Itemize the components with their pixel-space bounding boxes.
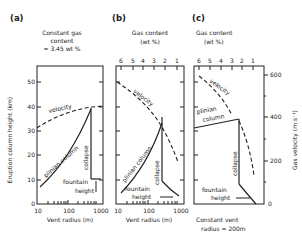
panel-c-column-label: column	[202, 112, 225, 123]
y2-tick-600: 600	[270, 71, 282, 78]
panel-b-plinian-label: plinian column	[120, 144, 154, 184]
panel-b-label: (b)	[112, 13, 126, 23]
panel-c-top-tick-4: 4	[219, 57, 223, 64]
panel-c-top-tick-5: 5	[208, 57, 212, 64]
y-tick-50: 50	[27, 78, 35, 85]
panel-b-x-ticks	[127, 200, 177, 204]
panel-c-velocity-curve-lower	[239, 121, 254, 176]
panel-a-x-ticks	[48, 200, 96, 204]
panel-a-caption-2: content	[51, 37, 75, 44]
panel-b-x-tick-10: 10	[114, 207, 122, 214]
panel-b-top-tick-4: 4	[141, 57, 145, 64]
figure: (a) Constant gas content = 3.45 wt % 50 …	[0, 0, 302, 241]
panel-c: (c) Gas content (wt %) 6 5 4 3 2 1 600	[192, 13, 299, 232]
y-tick-0: 0	[31, 200, 35, 207]
y-tick-40: 40	[27, 103, 35, 110]
panel-b-top-tick-6: 6	[119, 57, 123, 64]
panel-c-caption-2: (wt %)	[204, 38, 224, 45]
y-tick-20: 20	[27, 151, 35, 158]
panel-a-height-label: height	[75, 187, 95, 195]
panel-a-x-axis-label: Vent radius (m)	[47, 216, 93, 223]
panel-a-collapse-label: collapse	[82, 145, 90, 170]
panel-b-fountain-line	[162, 181, 179, 196]
left-y-axis: 50 40 30 20 10 0 Eruption column height …	[6, 78, 41, 207]
panel-c-height-label: height	[211, 194, 231, 202]
panel-a-caption-1: Constant gas	[42, 29, 82, 37]
panel-c-fountain-label: fountain	[202, 186, 227, 193]
panel-c-plot-frame	[194, 66, 264, 204]
panel-b-caption-2: (wt %)	[140, 38, 160, 45]
right-axis-label: Gas velocity (m s⁻¹)	[291, 110, 299, 170]
panel-c-collapse-label: collapse	[231, 151, 239, 176]
panel-c-top-tick-3: 3	[230, 57, 234, 64]
panel-a-fountain-label: fountain	[63, 178, 88, 185]
panel-b-x-tick-1000: 1000	[173, 207, 188, 214]
panel-b-fountain-label: fountain	[125, 185, 150, 192]
y2-tick-0: 0	[268, 200, 272, 207]
panel-a-plinian-label: plinian column	[42, 144, 80, 180]
y-tick-10: 10	[27, 176, 35, 183]
panel-c-bottom-caption-1: Constant vent	[196, 216, 239, 223]
panel-a-caption-3: = 3.45 wt %	[43, 45, 80, 52]
panel-c-fountain-line	[239, 184, 256, 204]
y-tick-30: 30	[27, 127, 35, 134]
panel-c-top-tick-6: 6	[197, 57, 201, 64]
panel-a-x-tick-10: 10	[34, 207, 42, 214]
panel-a: (a) Constant gas content = 3.45 wt % 50 …	[6, 13, 109, 223]
panel-c-caption-1: Gas content	[196, 29, 233, 36]
y2-tick-400: 400	[270, 113, 282, 120]
panel-a-label: (a)	[10, 13, 24, 23]
panel-a-x-tick-100: 100	[63, 207, 75, 214]
panel-c-top-axis: 6 5 4 3 2 1	[197, 57, 255, 70]
panel-b-top-axis: 6 5 4 3 2 1	[119, 57, 179, 70]
panel-b-top-tick-5: 5	[131, 57, 135, 64]
panel-b-velocity-label: velocity	[132, 87, 156, 108]
panel-a-x-tick-1000: 1000	[93, 207, 108, 214]
panel-b: (b) Gas content (wt %) 6 5 4 3 2 1	[112, 13, 189, 223]
panel-b-height-label: height	[132, 193, 152, 201]
panel-c-top-tick-2: 2	[240, 57, 244, 64]
panel-b-top-tick-1: 1	[175, 57, 179, 64]
panel-b-caption-1: Gas content	[132, 29, 169, 36]
panel-c-bottom-caption-2: radius = 200m	[201, 225, 246, 232]
y2-tick-200: 200	[270, 157, 282, 164]
panel-b-x-tick-100: 100	[143, 207, 155, 214]
panel-c-top-tick-1: 1	[251, 57, 255, 64]
panel-b-top-tick-2: 2	[163, 57, 167, 64]
panel-b-top-tick-3: 3	[152, 57, 156, 64]
panel-a-velocity-label: velocity	[48, 102, 73, 115]
panel-b-x-axis-label: Vent radius (m)	[126, 216, 172, 223]
panel-c-label: (c)	[192, 13, 205, 23]
left-axis-label: Eruption column height (km)	[6, 97, 14, 183]
panel-b-collapse-label: collapse	[153, 160, 161, 185]
panel-b-plot-frame	[116, 66, 184, 204]
right-y-axis: 600 400 200 0 Gas velocity (m s⁻¹)	[264, 71, 299, 207]
